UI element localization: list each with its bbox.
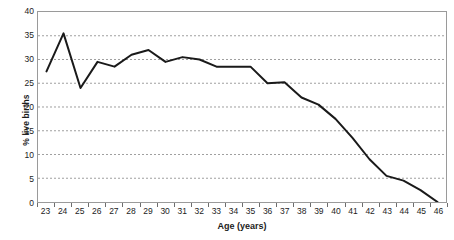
x-tick-mark [71,203,72,207]
gridlines [38,36,446,179]
x-tick-mark [225,203,226,207]
x-tick-mark [105,203,106,207]
x-tick-label: 29 [143,206,152,216]
x-tick-label: 34 [229,206,238,216]
x-tick-label: 32 [195,206,204,216]
x-tick-mark [276,203,277,207]
x-tick-label: 30 [160,206,169,216]
x-tick-label: 24 [58,206,67,216]
x-tick-mark [54,203,55,207]
x-tick-mark [122,203,123,207]
x-tick-mark [430,203,431,207]
x-tick-mark [191,203,192,207]
x-tick-label: 35 [246,206,255,216]
line-chart-svg [38,12,446,202]
x-tick-label: 39 [314,206,323,216]
x-tick-label: 41 [348,206,357,216]
plot-area [37,11,447,203]
x-tick-mark [88,203,89,207]
x-tick-mark [174,203,175,207]
x-tick-label: 38 [297,206,306,216]
y-tick-label: 20 [12,102,34,112]
x-tick-mark [379,203,380,207]
x-tick-label: 37 [280,206,289,216]
y-tick-label: 10 [12,150,34,160]
x-tick-label: 40 [331,206,340,216]
x-tick-label: 25 [75,206,84,216]
y-tick-label: 0 [12,198,34,208]
x-tick-label: 23 [41,206,50,216]
x-tick-mark [327,203,328,207]
x-tick-mark [310,203,311,207]
x-tick-mark [362,203,363,207]
x-tick-mark [345,203,346,207]
x-tick-mark [293,203,294,207]
x-tick-mark [140,203,141,207]
x-tick-label: 36 [263,206,272,216]
x-tick-mark [208,203,209,207]
y-tick-label: 40 [12,6,34,16]
x-tick-label: 33 [212,206,221,216]
x-tick-mark [157,203,158,207]
x-tick-label: 45 [417,206,426,216]
y-tick-label: 35 [12,30,34,40]
y-tick-label: 15 [12,126,34,136]
x-tick-label: 42 [365,206,374,216]
x-axis-title: Age (years) [37,221,447,231]
x-tick-label: 27 [109,206,118,216]
x-tick-mark [242,203,243,207]
x-tick-label: 44 [400,206,409,216]
x-tick-mark [447,203,448,207]
y-tick-label: 25 [12,78,34,88]
y-tick-label: 30 [12,54,34,64]
chart-container: % live births 0510152025303540 232425262… [0,0,454,240]
x-tick-mark [259,203,260,207]
y-tick-label: 5 [12,174,34,184]
x-tick-label: 26 [92,206,101,216]
x-tick-mark [37,203,38,207]
x-tick-label: 28 [126,206,135,216]
data-series-line [46,33,437,202]
x-tick-label: 43 [382,206,391,216]
x-tick-label: 46 [434,206,443,216]
x-tick-mark [413,203,414,207]
x-tick-mark [396,203,397,207]
y-axis: % live births 0510152025303540 [8,0,34,240]
x-axis: 2324252627282930313233343536373839404142… [37,203,447,219]
x-tick-label: 31 [177,206,186,216]
